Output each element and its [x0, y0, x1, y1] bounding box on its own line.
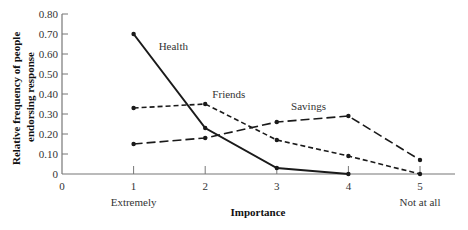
y-tick-label: 0.10 [39, 148, 59, 160]
y-tick-label: 0.80 [39, 8, 59, 20]
series-label-friends: Friends [212, 88, 245, 100]
y-axis: 00.100.200.300.400.500.600.700.80 [39, 8, 68, 180]
y-tick-label: 0 [53, 168, 59, 180]
data-point [203, 136, 207, 140]
x-tick-label: 2 [202, 180, 208, 192]
x-axis-title: Importance [231, 206, 286, 218]
data-point [346, 114, 350, 118]
data-point [203, 102, 207, 106]
data-point [131, 32, 135, 36]
y-tick-label: 0.30 [39, 108, 59, 120]
y-axis-title-line-2: endorsing response [24, 52, 36, 142]
data-point [131, 142, 135, 146]
x-tick-label: 4 [346, 180, 352, 192]
x-tick-label: 3 [274, 180, 280, 192]
y-tick-label: 0.60 [39, 48, 59, 60]
y-axis-title-line-1: Relative frequency of people [10, 32, 22, 165]
x-annotation: Not at all [400, 196, 441, 208]
data-point [346, 154, 350, 158]
data-point [275, 120, 279, 124]
y-tick-label: 0.50 [39, 68, 59, 80]
data-point [275, 138, 279, 142]
data-point [418, 172, 422, 176]
x-tick-label: 5 [417, 180, 423, 192]
series-label-health: Health [159, 40, 189, 52]
series-group [131, 32, 422, 176]
x-tick-label: 0 [59, 180, 65, 192]
data-point [418, 158, 422, 162]
y-tick-label: 0.20 [39, 128, 59, 140]
y-tick-label: 0.40 [39, 88, 59, 100]
y-tick-label: 0.70 [39, 28, 59, 40]
data-point [346, 172, 350, 176]
data-point [203, 126, 207, 130]
line-chart: 00.100.200.300.400.500.600.700.80 012345… [0, 0, 468, 230]
x-annotation: Extremely [111, 196, 157, 208]
x-tick-label: 1 [131, 180, 137, 192]
series-label-savings: Savings [291, 100, 326, 112]
data-point [131, 106, 135, 110]
data-point [275, 166, 279, 170]
y-axis-title: Relative frequency of people endorsing r… [10, 29, 36, 165]
x-axis: 012345ExtremelyNot at all [59, 166, 455, 208]
